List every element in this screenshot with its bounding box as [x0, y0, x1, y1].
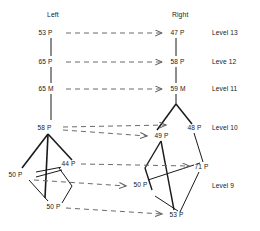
level-label-13: Level 13	[212, 30, 238, 37]
node-left-level9-b[interactable]: 44 P	[61, 161, 76, 168]
node-left-level13[interactable]: 53 P	[38, 30, 53, 37]
node-right-level10[interactable]: 48 P	[187, 125, 202, 132]
node-left-level9-c[interactable]: 50 P	[46, 204, 61, 211]
column-header-right: Right	[172, 12, 188, 19]
level-label-9: Level 9	[212, 183, 234, 190]
left-lower-struts	[29, 167, 72, 203]
dashed-level-arrows	[34, 33, 189, 214]
node-right-level12[interactable]: 58 P	[170, 59, 185, 66]
right-lower-struts	[148, 163, 200, 212]
diagram-canvas: Left Right Level 13 Leve 12 Level 11 Lev…	[0, 0, 260, 231]
node-right-level9-c[interactable]: 53 P	[169, 212, 184, 219]
node-left-level11[interactable]: 65 M	[38, 86, 54, 93]
level-label-10: Level 10	[212, 125, 238, 132]
level-label-11: Level 11	[212, 86, 237, 93]
node-right-level9-b[interactable]: 50 P	[133, 182, 148, 189]
node-right-level13[interactable]: 47 P	[170, 30, 185, 37]
node-mid-level10[interactable]: 49 P	[154, 133, 169, 140]
node-left-level10[interactable]: 58 P	[37, 125, 52, 132]
level-label-12: Leve 12	[212, 59, 236, 66]
right-48-to-71	[194, 133, 203, 162]
right-level9-branch	[145, 141, 174, 210]
node-left-level9-a[interactable]: 50 P	[8, 172, 23, 179]
node-left-level12[interactable]: 65 P	[38, 59, 53, 66]
column-header-left: Left	[47, 12, 59, 19]
node-right-level11[interactable]: 59 M	[170, 86, 186, 93]
node-right-level9-a[interactable]: 71 P	[194, 164, 209, 171]
